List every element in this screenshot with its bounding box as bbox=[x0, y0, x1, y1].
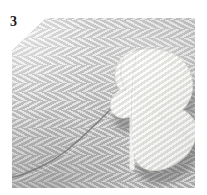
butterfly-silhouette bbox=[110, 49, 195, 171]
figure-number-label: 3 bbox=[10, 15, 17, 29]
paper-butterfly bbox=[86, 46, 195, 176]
photo-frame bbox=[12, 18, 195, 188]
